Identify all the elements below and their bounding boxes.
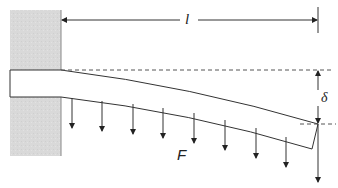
deflection-label: δ [321, 91, 328, 105]
force-label: F [177, 147, 186, 162]
length-label: l [185, 12, 189, 27]
cantilever-diagram [0, 0, 338, 188]
